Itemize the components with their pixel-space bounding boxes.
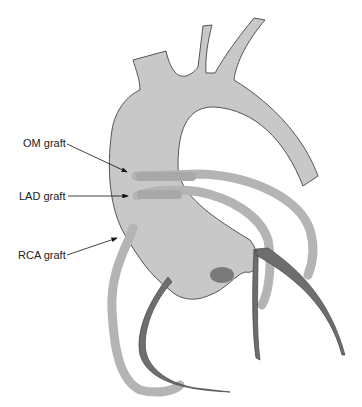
bypass-diagram xyxy=(0,0,362,407)
lad-graft-label: LAD graft xyxy=(19,190,65,202)
rca-graft-label: RCA graft xyxy=(18,249,66,261)
om-stump xyxy=(136,172,196,181)
rca-arrow xyxy=(67,238,117,255)
lad-stump xyxy=(137,190,182,199)
aorta-heart-body xyxy=(109,18,318,299)
om-graft-label: OM graft xyxy=(23,137,66,149)
heart-lobe xyxy=(210,267,234,283)
